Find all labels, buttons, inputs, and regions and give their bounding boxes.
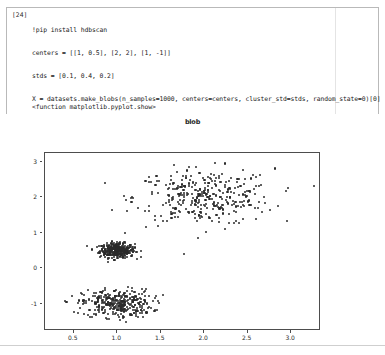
scatter-point (170, 179, 172, 181)
scatter-point (141, 293, 143, 295)
scatter-point (140, 309, 142, 311)
scatter-point (132, 300, 134, 302)
scatter-point (114, 313, 116, 315)
scatter-point (179, 199, 181, 201)
scatter-point (221, 198, 223, 200)
scatter-point (120, 300, 122, 302)
scatter-point (79, 307, 81, 309)
scatter-point (226, 191, 228, 193)
scatter-point (238, 222, 240, 224)
scatter-point (250, 177, 252, 179)
scatter-point (195, 166, 197, 168)
scatter-point (230, 191, 232, 193)
scatter-point (212, 208, 214, 210)
scatter-point (231, 204, 233, 206)
x-tick-mark (203, 330, 204, 333)
scatter-point (136, 251, 138, 253)
scatter-point (230, 177, 232, 179)
scatter-point (109, 254, 111, 256)
x-tick-label: 3.0 (285, 334, 295, 341)
scatter-point (260, 184, 262, 186)
scatter-point (113, 306, 115, 308)
y-axis: -10123 (6, 152, 42, 330)
scatter-point (151, 193, 153, 195)
scatter-point (215, 194, 217, 196)
scatter-point (179, 211, 181, 213)
scatter-point (202, 195, 204, 197)
scatter-point (124, 232, 126, 234)
scatter-point (170, 217, 172, 219)
scatter-point (118, 242, 120, 244)
scatter-point (212, 193, 214, 195)
scatter-point (71, 295, 73, 297)
scatter-point (228, 222, 230, 224)
scatter-point (274, 167, 276, 169)
scatter-point (129, 314, 131, 316)
scatter-point (224, 228, 226, 230)
scatter-point (259, 174, 261, 176)
scatter-point (94, 309, 96, 311)
scatter-point (234, 187, 236, 189)
scatter-point (118, 316, 120, 318)
scatter-point (126, 252, 128, 254)
scatter-point (250, 204, 252, 206)
y-tick-label: 1 (33, 228, 37, 235)
scatter-point (98, 309, 100, 311)
scatter-point (134, 304, 136, 306)
scatter-point (286, 220, 288, 222)
scatter-point (123, 292, 125, 294)
scatter-point (185, 177, 187, 179)
scatter-point (253, 188, 255, 190)
scatter-point (213, 201, 215, 203)
scatter-point (263, 196, 265, 198)
scatter-point (182, 175, 184, 177)
x-tick-mark (116, 330, 117, 333)
scatter-point (236, 181, 238, 183)
scatter-point (252, 174, 254, 176)
scatter-point (94, 303, 96, 305)
scatter-point (207, 185, 209, 187)
scatter-point (126, 210, 128, 212)
scatter-point (227, 188, 229, 190)
scatter-point (183, 253, 185, 255)
scatter-point (242, 169, 244, 171)
scatter-point (174, 216, 176, 218)
scatter-point (78, 299, 80, 301)
scatter-point (91, 316, 93, 318)
scatter-point (218, 189, 220, 191)
scatter-point (180, 204, 182, 206)
scatter-point (127, 299, 129, 301)
scatter-point (183, 199, 185, 201)
scatter-point (222, 208, 224, 210)
scatter-point (117, 307, 119, 309)
scatter-point (178, 195, 180, 197)
scatter-point (95, 313, 97, 315)
scatter-point (122, 242, 124, 244)
scatter-point (107, 261, 109, 263)
scatter-point (141, 288, 143, 290)
scatter-point (156, 309, 158, 311)
scatter-point (110, 298, 112, 300)
scatter-point (242, 218, 244, 220)
scatter-point (123, 195, 125, 197)
scatter-point (146, 303, 148, 305)
scatter-point (77, 302, 79, 304)
scatter-point (152, 300, 154, 302)
scatter-point (104, 289, 106, 291)
scatter-point (233, 192, 235, 194)
scatter-point (204, 187, 206, 189)
scatter-point (169, 204, 171, 206)
scatter-point (160, 215, 162, 217)
notebook-cell[interactable]: [24] !pip install hdbscan centers = [[1,… (6, 7, 379, 120)
scatter-point (185, 208, 187, 210)
scatter-point (121, 256, 123, 258)
scatter-point (174, 188, 176, 190)
scatter-point (210, 173, 212, 175)
scatter-point (91, 300, 93, 302)
x-axis: 0.51.01.52.02.53.0 (44, 330, 320, 346)
scatter-point (194, 203, 196, 205)
scatter-point (197, 206, 199, 208)
scatter-point (240, 206, 242, 208)
scatter-point (114, 302, 116, 304)
scatter-point (224, 186, 226, 188)
